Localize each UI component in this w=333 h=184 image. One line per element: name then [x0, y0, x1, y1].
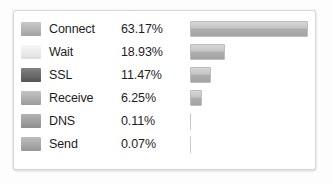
series-bar-dns — [190, 113, 191, 130]
timing-row-connect[interactable]: Connect 63.17% — [14, 18, 315, 41]
timing-row-wait[interactable]: Wait 18.93% — [14, 41, 315, 64]
series-percentage-receive: 6.25% — [121, 87, 156, 110]
network-timing-breakdown-panel: Connect 63.17% Wait 18.93% SSL 11.47% Re… — [13, 10, 316, 170]
series-label-dns: DNS — [49, 110, 75, 133]
series-bar-wait — [190, 44, 225, 60]
timing-row-list: Connect 63.17% Wait 18.93% SSL 11.47% Re… — [14, 18, 315, 156]
bar-track — [190, 87, 312, 110]
series-label-receive: Receive — [49, 87, 93, 110]
series-bar-connect — [190, 21, 308, 37]
series-percentage-send: 0.07% — [121, 133, 156, 156]
series-label-ssl: SSL — [49, 64, 72, 87]
timing-row-dns[interactable]: DNS 0.11% — [14, 110, 315, 133]
series-percentage-ssl: 11.47% — [121, 64, 162, 87]
series-bar-ssl — [190, 67, 211, 83]
series-label-connect: Connect — [49, 18, 95, 41]
series-color-swatch-send — [21, 137, 41, 151]
series-color-swatch-connect — [21, 22, 41, 36]
series-color-swatch-ssl — [21, 68, 41, 82]
series-percentage-dns: 0.11% — [121, 110, 155, 133]
timing-row-send[interactable]: Send 0.07% — [14, 133, 315, 156]
series-percentage-wait: 18.93% — [121, 41, 163, 64]
bar-track — [190, 64, 312, 87]
bar-track — [190, 41, 312, 64]
series-label-wait: Wait — [49, 41, 73, 64]
series-color-swatch-wait — [21, 45, 41, 59]
series-bar-send — [190, 136, 191, 153]
bar-track — [190, 18, 312, 41]
series-bar-receive — [190, 90, 202, 106]
series-color-swatch-dns — [21, 114, 41, 128]
series-percentage-connect: 63.17% — [121, 18, 163, 41]
screenshot-stage: Connect 63.17% Wait 18.93% SSL 11.47% Re… — [0, 0, 333, 184]
bar-track — [190, 133, 312, 156]
series-label-send: Send — [49, 133, 78, 156]
series-color-swatch-receive — [21, 91, 41, 105]
timing-row-receive[interactable]: Receive 6.25% — [14, 87, 315, 110]
bar-track — [190, 110, 312, 133]
timing-row-ssl[interactable]: SSL 11.47% — [14, 64, 315, 87]
